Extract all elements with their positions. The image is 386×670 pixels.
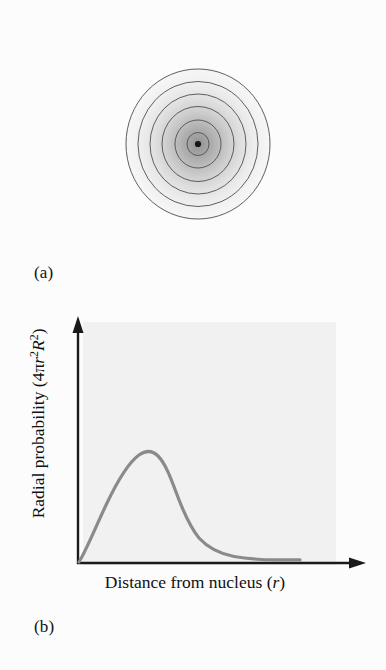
- electron-cloud-svg: [123, 66, 273, 223]
- y-axis-label-close: ): [28, 328, 48, 334]
- nucleus-dot: [195, 141, 201, 147]
- panel-b-caption: (b): [34, 617, 54, 637]
- y-axis-exp-R: 2: [27, 334, 41, 340]
- y-axis-label: Radial probability (4πr2R2): [27, 323, 50, 523]
- panel-b-radial-probability-plot: Radial probability (4πr2R2) Distance fro…: [0, 300, 386, 670]
- x-axis-label: Distance from nucleus (r): [60, 572, 330, 593]
- y-axis-arrowhead: [73, 316, 84, 333]
- y-axis-label-main: Radial probability (4π: [28, 364, 48, 519]
- panel-a-caption: (a): [34, 263, 53, 283]
- panel-a-electron-cloud: (a): [0, 0, 386, 300]
- y-axis-var-R: R: [28, 340, 48, 351]
- x-axis-label-close: ): [279, 572, 285, 592]
- x-axis-arrowhead: [349, 558, 366, 569]
- radial-probability-chart: [0, 300, 386, 600]
- y-axis-exp-r: 2: [27, 351, 41, 357]
- electron-cloud-diagram: [123, 66, 273, 223]
- x-axis-label-main: Distance from nucleus (: [105, 572, 273, 592]
- y-axis-var-r: r: [28, 357, 48, 364]
- radial-probability-curve: [79, 451, 300, 562]
